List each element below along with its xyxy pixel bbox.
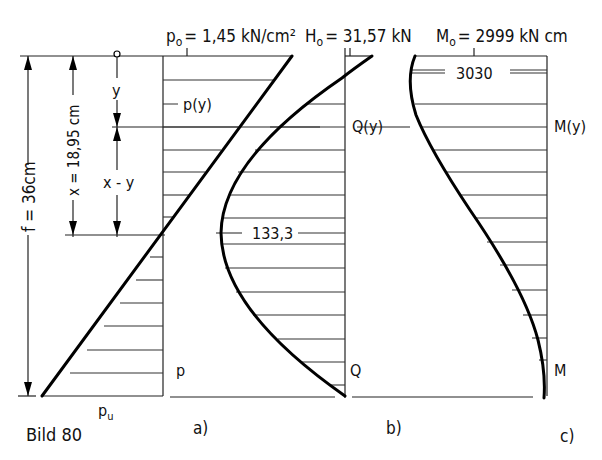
m-bottom-label: M: [554, 361, 566, 380]
dimension-f: f = 36cm: [18, 56, 40, 396]
m0-label: Mo= 2999 kN cm: [436, 26, 568, 49]
panel-c-label: c): [560, 426, 574, 446]
f-dimension-label: f = 36cm: [19, 161, 39, 232]
x-minus-y-label: x - y: [103, 173, 135, 192]
p0-label: po= 1,45 kN/cm²: [166, 26, 296, 49]
figure-caption: Bild 80: [26, 424, 82, 445]
panel-c-moment-diagram: [352, 48, 547, 398]
shear-peak-value: 133,3: [252, 224, 293, 243]
p-bottom-label: p: [176, 361, 185, 380]
panel-a-label: a): [193, 418, 208, 438]
m-of-y-label: M(y): [554, 117, 586, 136]
q-bottom-label: Q: [350, 361, 361, 380]
x-dimension-label: x = 18,95 cm: [65, 105, 83, 196]
h0-label: Ho= 31,57 kN: [305, 26, 412, 49]
panel-b-label: b): [386, 418, 402, 438]
diagram-canvas: f = 36cm x = 18,95 cm y x - y: [0, 0, 602, 460]
pu-label: pu: [98, 401, 113, 423]
p-of-y-label: p(y): [183, 95, 212, 114]
dimension-x-minus-y: x - y: [103, 127, 135, 237]
y-dimension-label: y: [112, 81, 121, 100]
dimension-y: y: [112, 51, 121, 127]
moment-max-value: 3030: [456, 64, 493, 83]
